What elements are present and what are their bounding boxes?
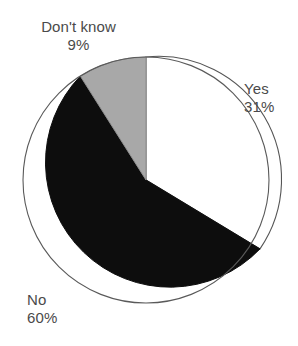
pie-label-dont-know-percent: 9% <box>0 37 157 53</box>
pie-label-dont-know-name: Don't know <box>41 18 116 35</box>
pie-label-dont-know: Don't know 9% <box>0 19 157 53</box>
pie-label-no-percent: 60% <box>27 310 107 326</box>
pie-chart: Don't know 9% Yes 31% No 60% <box>0 0 298 346</box>
pie-label-no-name: No <box>27 291 46 308</box>
pie-label-yes-name: Yes <box>244 80 269 97</box>
pie-label-yes-percent: 31% <box>244 99 298 115</box>
pie-label-yes: Yes 31% <box>244 81 298 115</box>
pie-label-no: No 60% <box>27 292 107 326</box>
